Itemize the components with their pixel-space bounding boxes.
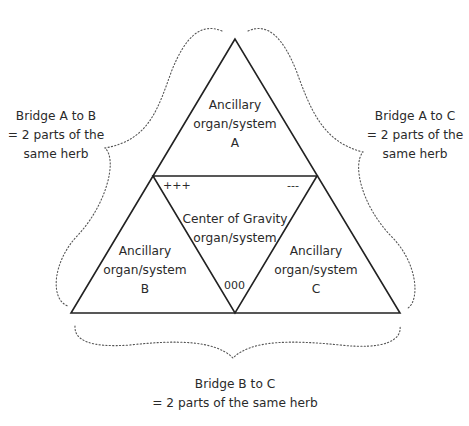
label-center-line1: Center of Gravity <box>172 210 298 229</box>
marker-zero: 000 <box>224 280 245 292</box>
label-organ-c-line3: C <box>266 280 366 299</box>
label-organ-c-line1: Ancillary <box>266 242 366 261</box>
label-organ-b-line2: organ/system <box>95 261 195 280</box>
bridge-a-c-line3: same herb <box>361 145 469 164</box>
label-organ-b-line1: Ancillary <box>95 242 195 261</box>
bridge-b-c-line1: Bridge B to C <box>135 375 335 394</box>
marker-minus: --- <box>287 180 299 192</box>
label-organ-c: Ancillary organ/system C <box>266 242 366 299</box>
bridge-b-c-brace <box>75 326 400 358</box>
label-organ-c-line2: organ/system <box>266 261 366 280</box>
bridge-a-c-label: Bridge A to C = 2 parts of the same herb <box>361 107 469 164</box>
label-organ-a: Ancillary organ/system A <box>185 96 285 153</box>
bridge-b-c-line2: = 2 parts of the same herb <box>135 394 335 413</box>
label-organ-a-line2: organ/system <box>185 115 285 134</box>
label-organ-b-line3: B <box>95 280 195 299</box>
bridge-a-b-line1: Bridge A to B <box>2 107 110 126</box>
bridge-a-b-label: Bridge A to B = 2 parts of the same herb <box>2 107 110 164</box>
bridge-a-c-line1: Bridge A to C <box>361 107 469 126</box>
bridge-a-b-line3: same herb <box>2 145 110 164</box>
label-organ-b: Ancillary organ/system B <box>95 242 195 299</box>
label-organ-a-line1: Ancillary <box>185 96 285 115</box>
bridge-b-c-label: Bridge B to C = 2 parts of the same herb <box>135 375 335 413</box>
marker-plus: +++ <box>163 180 191 192</box>
bridge-a-b-line2: = 2 parts of the <box>2 126 110 145</box>
label-organ-a-line3: A <box>185 134 285 153</box>
bridge-a-c-line2: = 2 parts of the <box>361 126 469 145</box>
